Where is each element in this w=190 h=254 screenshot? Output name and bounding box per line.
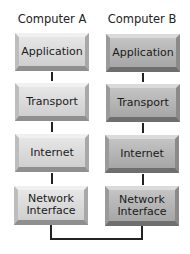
layer-label: Transport: [117, 97, 169, 109]
computer-a-title: Computer A: [12, 12, 92, 26]
link-bottom: [50, 238, 143, 240]
computer-a-application-layer: Application: [15, 33, 89, 71]
connector-b-2: [142, 123, 144, 133]
layer-label: Internet: [120, 148, 164, 160]
computer-b-application-layer: Application: [106, 34, 180, 72]
computer-b-transport-layer: Transport: [106, 84, 180, 122]
computer-b-internet-layer: Internet: [105, 135, 179, 173]
connector-a-1: [51, 72, 53, 81]
link-b-down: [141, 226, 143, 240]
computer-a-network-interface-layer: Network Interface: [14, 186, 88, 225]
connector-a-3: [51, 173, 53, 184]
layer-label-line2: Interface: [117, 206, 166, 218]
computer-a-transport-layer: Transport: [15, 83, 89, 121]
layer-label: Transport: [26, 96, 78, 108]
layer-label-line1: Network: [119, 194, 165, 206]
connector-b-3: [142, 174, 144, 185]
layer-label-line2: Interface: [26, 205, 75, 217]
computer-a-internet-layer: Internet: [15, 134, 89, 172]
layer-label: Internet: [30, 147, 74, 159]
connector-a-2: [51, 122, 53, 132]
computer-b-title: Computer B: [102, 12, 182, 26]
layer-label: Application: [112, 47, 173, 59]
computer-b-network-interface-layer: Network Interface: [105, 186, 179, 226]
layer-label: Application: [21, 46, 82, 58]
connector-b-1: [142, 73, 144, 82]
